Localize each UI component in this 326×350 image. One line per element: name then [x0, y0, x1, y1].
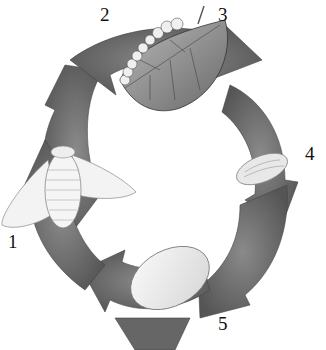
arrow-tail-down	[115, 318, 190, 350]
moth-wing-right	[72, 155, 136, 198]
stage-label-4: 4	[305, 144, 315, 163]
life-cycle-diagram	[0, 0, 326, 350]
stage-label-2: 2	[100, 5, 110, 24]
stage-label-3: 3	[218, 5, 228, 24]
arrow-segment-4-to-5	[198, 185, 287, 318]
stage-label-5: 5	[218, 314, 228, 333]
adult-moth	[2, 146, 136, 228]
stage-label-1: 1	[8, 232, 18, 251]
leaf-with-larva	[120, 6, 228, 111]
